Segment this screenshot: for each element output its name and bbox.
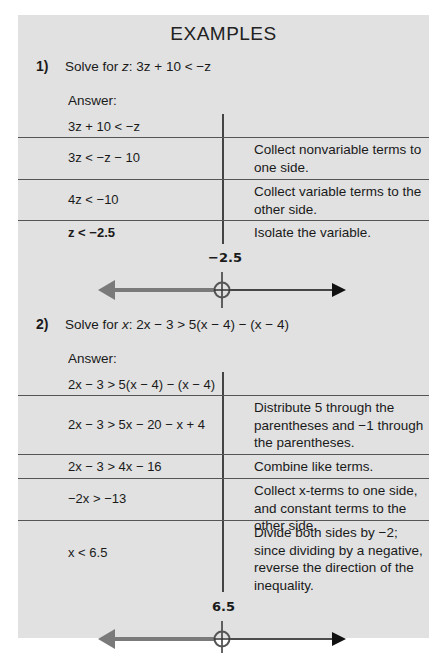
number-line-graphic <box>18 248 429 308</box>
right-arrow-icon <box>332 632 346 646</box>
example-2-answer-label: Answer: <box>68 351 117 366</box>
table-row: 4z < −10 Collect variable terms to the o… <box>18 179 429 220</box>
step-explanation: Distribute 5 through the parentheses and… <box>254 399 426 452</box>
prompt-equation: : 3z + 10 < −z <box>129 59 211 74</box>
step-explanation: Collect variable terms to the other side… <box>254 183 426 218</box>
step-expression: 2x − 3 > 4x − 16 <box>68 459 162 474</box>
left-arrow-icon <box>98 629 115 649</box>
table-row: 3z + 10 < −z <box>18 115 429 137</box>
step-explanation: Combine like terms. <box>254 458 426 476</box>
example-2-number: 2) <box>36 316 48 332</box>
step-expression: −2x > −13 <box>68 491 126 506</box>
step-explanation: Collect nonvariable terms to one side. <box>254 141 426 176</box>
example-1-prompt: Solve for z: 3z + 10 < −z <box>65 59 211 74</box>
prompt-prefix: Solve for <box>65 317 122 332</box>
table-row: 3z < −z − 10 Collect nonvariable terms t… <box>18 137 429 178</box>
number-line-1: −2.5 <box>18 248 429 308</box>
example-1-answer-label: Answer: <box>68 93 117 108</box>
step-expression: 2x − 3 > 5(x − 4) − (x − 4) <box>68 377 215 392</box>
number-line-2: 6.5 <box>18 597 429 657</box>
page-title: EXAMPLES <box>18 23 429 45</box>
prompt-prefix: Solve for <box>65 59 122 74</box>
prompt-equation: : 2x − 3 > 5(x − 4) − (x − 4) <box>129 317 289 332</box>
step-expression: 3z + 10 < −z <box>68 119 140 134</box>
step-expression: z < −2.5 <box>68 225 115 240</box>
table-row: 2x − 3 > 5x − 20 − x + 4 Distribute 5 th… <box>18 395 429 454</box>
table-row: 2x − 3 > 5(x − 4) − (x − 4) <box>18 373 429 395</box>
table-row: x < 6.5 Divide both sides by −2; since d… <box>18 520 429 593</box>
example-1-number: 1) <box>36 58 48 74</box>
step-expression: 2x − 3 > 5x − 20 − x + 4 <box>68 417 205 432</box>
step-expression: 3z < −z − 10 <box>68 150 140 165</box>
left-arrow-icon <box>98 280 115 300</box>
right-arrow-icon <box>332 283 346 297</box>
prompt-variable: z <box>122 59 129 74</box>
number-line-graphic <box>18 597 429 657</box>
example-2-prompt: Solve for x: 2x − 3 > 5(x − 4) − (x − 4) <box>65 317 289 332</box>
step-explanation: Divide both sides by −2; since dividing … <box>254 524 426 594</box>
step-expression: x < 6.5 <box>68 545 107 560</box>
step-explanation: Isolate the variable. <box>254 224 426 242</box>
table-row: 2x − 3 > 4x − 16 Combine like terms. <box>18 454 429 478</box>
prompt-variable: x <box>122 317 129 332</box>
table-row: z < −2.5 Isolate the variable. <box>18 220 429 245</box>
examples-panel: EXAMPLES 1) Solve for z: 3z + 10 < −z An… <box>18 15 429 638</box>
step-expression: 4z < −10 <box>68 192 119 207</box>
table-row: −2x > −13 Collect x-terms to one side, a… <box>18 478 429 519</box>
